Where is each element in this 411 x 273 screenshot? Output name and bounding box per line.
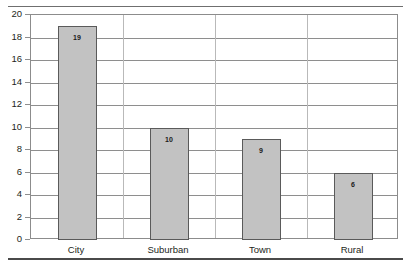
y-axis-tick-mark bbox=[25, 149, 30, 150]
y-axis-tick-mark bbox=[25, 194, 30, 195]
x-axis-label-rural: Rural bbox=[306, 245, 398, 255]
y-axis-tick-label: 6 bbox=[2, 167, 22, 177]
y-axis-tick-mark bbox=[25, 82, 30, 83]
bar-value-label: 19 bbox=[59, 34, 96, 41]
y-axis-tick-mark bbox=[25, 104, 30, 105]
y-axis-tick-mark bbox=[25, 239, 30, 240]
y-axis-tick-label: 4 bbox=[2, 189, 22, 199]
y-axis-tick-mark bbox=[25, 127, 30, 128]
bar-value-label: 6 bbox=[335, 181, 372, 188]
y-axis-tick-mark bbox=[25, 14, 30, 15]
top-horizontal-rule bbox=[8, 6, 403, 7]
y-axis-tick-label: 18 bbox=[2, 32, 22, 42]
chart-title-clipped bbox=[80, 0, 340, 5]
x-axis-label-town: Town bbox=[214, 245, 306, 255]
y-axis-tick-label: 14 bbox=[2, 77, 22, 87]
x-axis-label-city: City bbox=[30, 245, 122, 255]
y-axis-tick-mark bbox=[25, 37, 30, 38]
chart-screenshot: 191096 02468101214161820 CitySuburbanTow… bbox=[0, 0, 411, 273]
y-axis-tick-label: 0 bbox=[2, 234, 22, 244]
y-axis-tick-label: 2 bbox=[2, 212, 22, 222]
x-axis-label-suburban: Suburban bbox=[122, 245, 214, 255]
bar-suburban: 10 bbox=[150, 128, 189, 241]
bar-rural: 6 bbox=[334, 173, 373, 241]
plot-area: 191096 bbox=[30, 14, 398, 239]
y-axis-tick-label: 12 bbox=[2, 99, 22, 109]
bar-value-label: 9 bbox=[243, 147, 280, 154]
gridline-category-separator bbox=[123, 15, 124, 238]
y-axis-tick-mark bbox=[25, 217, 30, 218]
y-axis-tick-mark bbox=[25, 172, 30, 173]
y-axis-tick-mark bbox=[25, 59, 30, 60]
bottom-horizontal-rule bbox=[8, 258, 403, 260]
y-axis-tick-label: 8 bbox=[2, 144, 22, 154]
y-axis-tick-label: 10 bbox=[2, 122, 22, 132]
bar-city: 19 bbox=[58, 26, 97, 240]
bar-town: 9 bbox=[242, 139, 281, 240]
gridline-category-separator bbox=[215, 15, 216, 238]
bar-value-label: 10 bbox=[151, 136, 188, 143]
gridline-category-separator bbox=[307, 15, 308, 238]
y-axis-tick-label: 20 bbox=[2, 9, 22, 19]
y-axis-tick-label: 16 bbox=[2, 54, 22, 64]
